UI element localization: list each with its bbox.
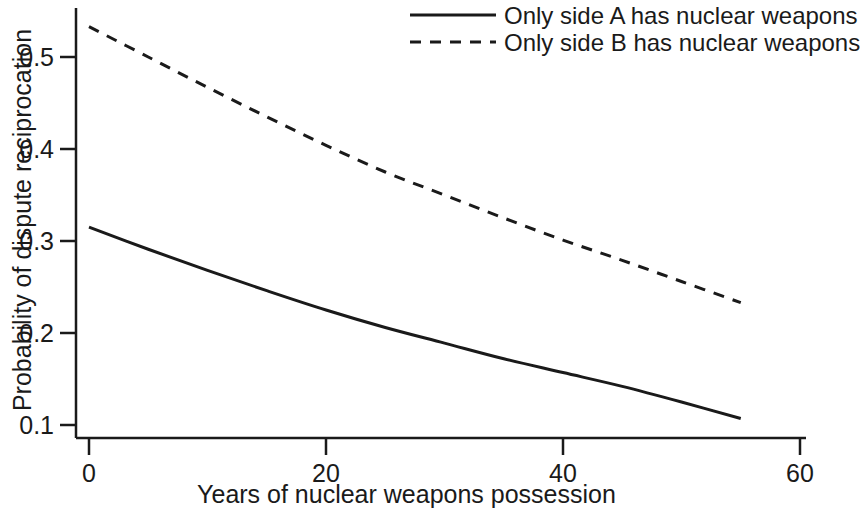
y-axis-title: Probability of dispute reciprocation bbox=[6, 0, 38, 440]
legend-label-side-a: Only side A has nuclear weapons bbox=[504, 2, 858, 30]
series-line-side-b bbox=[89, 27, 741, 303]
x-axis-title: Years of nuclear weapons possession bbox=[0, 480, 813, 509]
y-axis-ticks bbox=[60, 57, 76, 425]
series-line-side-a bbox=[89, 227, 741, 418]
x-axis-ticks bbox=[89, 438, 800, 455]
legend-label-side-b: Only side B has nuclear weapons bbox=[504, 29, 860, 57]
